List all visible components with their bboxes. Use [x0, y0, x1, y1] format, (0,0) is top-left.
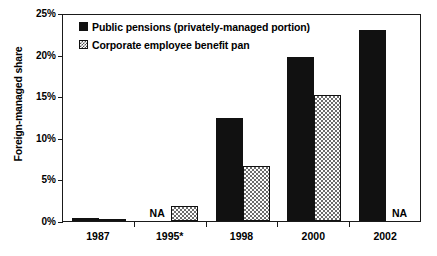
x-tick-mark: [134, 222, 135, 227]
y-tick-label: 20%: [22, 51, 56, 61]
x-tick-label: 1987: [58, 230, 138, 242]
x-tick-label: 2000: [273, 230, 353, 242]
bar: [243, 166, 270, 221]
bar: [314, 95, 341, 221]
bar-chart: Foreign-managed share 0%5%10%15%20%25% 1…: [0, 0, 437, 256]
y-axis-title: Foreign-managed share: [10, 24, 26, 184]
bar: [359, 30, 386, 221]
x-tick-mark: [277, 222, 278, 227]
x-tick-mark: [349, 222, 350, 227]
y-tick-label: 0%: [22, 217, 56, 227]
x-tick-label: 1995*: [130, 230, 210, 242]
bar: [171, 206, 198, 221]
legend-item-label: Public pensions (privately-managed porti…: [92, 21, 310, 33]
bar: [216, 118, 243, 221]
bar: [99, 219, 126, 221]
na-label: NA: [144, 207, 171, 219]
x-tick-mark: [206, 222, 207, 227]
na-label: NA: [386, 207, 413, 219]
y-tick-label: 25%: [22, 9, 56, 19]
bar: [72, 218, 99, 221]
bar: [287, 57, 314, 221]
solid-swatch-icon: [79, 22, 88, 31]
legend-item-label: Corporate employee benefit pan: [92, 39, 249, 51]
x-tick-label: 2002: [345, 230, 425, 242]
plot-inner: Public pensions (privately-managed porti…: [63, 15, 420, 221]
y-tick-label: 10%: [22, 134, 56, 144]
chart-legend: Public pensions (privately-managed porti…: [79, 19, 310, 55]
legend-item-public-pensions: Public pensions (privately-managed porti…: [79, 19, 310, 34]
plot-area: Public pensions (privately-managed porti…: [62, 14, 421, 222]
legend-item-corporate-benefit: Corporate employee benefit pan: [79, 37, 310, 52]
y-tick-mark: [58, 222, 63, 223]
y-tick-label: 5%: [22, 175, 56, 185]
y-tick-label: 15%: [22, 92, 56, 102]
x-tick-label: 1998: [202, 230, 282, 242]
hatched-swatch-icon: [79, 40, 88, 49]
